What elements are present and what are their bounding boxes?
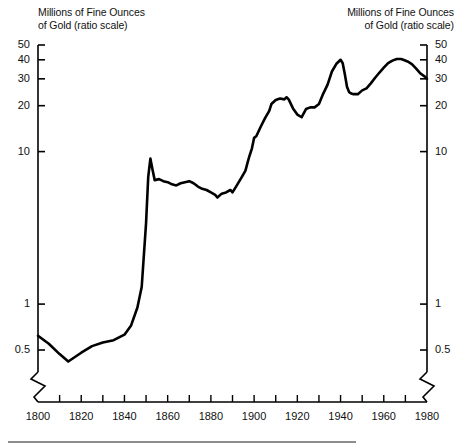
x-tick-label: 1920 <box>277 410 317 422</box>
y-tick-label-right: 50 <box>435 38 461 50</box>
x-tick-label: 1960 <box>364 410 404 422</box>
chart-axes <box>31 45 434 402</box>
y-tick-label-left: 1 <box>4 297 30 309</box>
x-tick-label: 1840 <box>104 410 144 422</box>
y-tick-label-right: 30 <box>435 72 461 84</box>
x-tick-label: 1860 <box>148 410 188 422</box>
x-tick-label: 1900 <box>234 410 274 422</box>
y-tick-label-left: 50 <box>4 38 30 50</box>
chart-plot-area <box>0 0 464 447</box>
x-tick-label: 1880 <box>191 410 231 422</box>
gold-production-chart: Millions of Fine Ounces of Gold (ratio s… <box>0 0 464 447</box>
footer-rule <box>8 441 356 443</box>
y-tick-label-right: 40 <box>435 53 461 65</box>
x-tick-label: 1820 <box>61 410 101 422</box>
y-tick-label-left: 10 <box>4 145 30 157</box>
y-tick-label-right: 1 <box>435 297 461 309</box>
x-tick-label: 1980 <box>407 410 447 422</box>
chart-caption-left: Millions of Fine Ounces of Gold (ratio s… <box>38 6 145 31</box>
chart-caption-right: Millions of Fine Ounces of Gold (ratio s… <box>347 6 454 31</box>
y-tick-label-left: 30 <box>4 72 30 84</box>
y-tick-label-left: 40 <box>4 53 30 65</box>
y-tick-label-right: 20 <box>435 99 461 111</box>
y-tick-label-right: 10 <box>435 145 461 157</box>
y-tick-label-right: 0.5 <box>435 343 461 355</box>
data-series-line <box>38 59 427 362</box>
x-tick-label: 1940 <box>321 410 361 422</box>
x-tick-label: 1800 <box>18 410 58 422</box>
y-tick-label-left: 20 <box>4 99 30 111</box>
y-tick-label-left: 0.5 <box>4 343 30 355</box>
